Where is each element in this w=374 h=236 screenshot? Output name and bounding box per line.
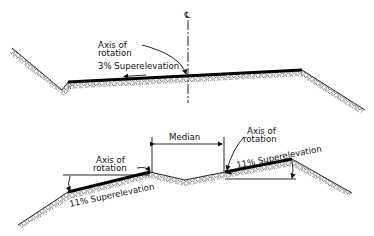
superelevation-diagram: ℄ Axis of rotation 3% Superelevation Med… <box>0 0 374 236</box>
top-cross-section: ℄ Axis of rotation 3% Superelevation <box>10 10 365 113</box>
bottom-right-axis-label-line2: rotation <box>243 134 277 144</box>
top-slope-direction-arrow <box>124 75 146 77</box>
centerline-symbol: ℄ <box>184 10 191 20</box>
top-right-earth <box>300 70 365 113</box>
bottom-left-earth <box>18 159 352 228</box>
bottom-left-axis-label-line2: rotation <box>93 163 127 173</box>
median-label: Median <box>169 132 200 142</box>
top-left-earth <box>10 48 74 96</box>
bottom-left-axis-arrow <box>137 167 150 171</box>
bottom-cross-section: Median Axis of rotation Axis of rotation… <box>18 126 352 228</box>
top-superelevation-label: 3% Superelevation <box>98 61 179 71</box>
left-angle-arc <box>69 176 71 191</box>
top-axis-label-line2: rotation <box>98 48 132 58</box>
